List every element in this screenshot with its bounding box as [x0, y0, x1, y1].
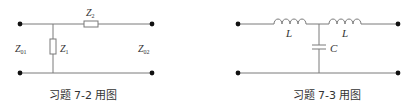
terminal-dot [396, 22, 401, 27]
caption-figure-7-3: 习题 7-3 用图 [293, 86, 362, 102]
label-z1: Z1 [60, 43, 69, 55]
caption-figure-7-2: 习题 7-2 用图 [49, 86, 118, 102]
label-inductor-left: L [285, 27, 292, 39]
shunt-impedance-z1 [50, 39, 56, 54]
figure-7-2-terminals [18, 22, 155, 76]
inductor-right [329, 19, 361, 24]
figure-7-3-circuit [238, 19, 398, 73]
terminal-dot [150, 71, 155, 76]
series-impedance-z2 [84, 21, 98, 27]
inductor-left [274, 19, 306, 24]
terminal-dot [396, 71, 401, 76]
label-inductor-right: L [341, 27, 348, 39]
terminal-dot [18, 71, 23, 76]
terminal-dot [236, 71, 241, 76]
terminal-dot [150, 22, 155, 27]
label-z02: Z02 [138, 43, 150, 55]
label-z01: Z01 [15, 43, 27, 55]
terminal-dot [18, 22, 23, 27]
label-capacitor: C [330, 42, 338, 54]
figure-7-2-circuit [20, 21, 152, 73]
label-z2: Z2 [86, 7, 95, 19]
terminal-dot [236, 22, 241, 27]
